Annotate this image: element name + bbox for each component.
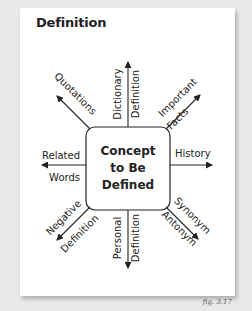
concept-map: Concept to Be Defined Dictionary Definit…: [0, 0, 252, 311]
figure-caption: fig. 3.17: [203, 298, 232, 306]
label-related: Related: [42, 150, 80, 161]
label-dictionary-definition: Definition: [130, 70, 141, 118]
label-words: Words: [49, 172, 80, 183]
center-label-line3: Defined: [102, 178, 154, 192]
label-history: History: [175, 148, 211, 159]
label-dictionary: Dictionary: [112, 68, 123, 119]
label-quotations: Quotations: [52, 70, 98, 116]
label-personal-definition: Definition: [130, 214, 141, 262]
center-label-line2: to Be: [110, 161, 145, 175]
center-label-line1: Concept: [100, 144, 155, 158]
label-personal: Personal: [112, 217, 123, 260]
